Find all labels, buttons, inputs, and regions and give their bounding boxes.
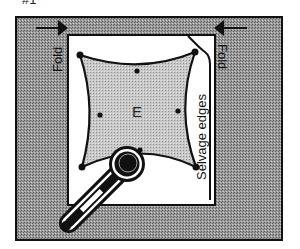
pattern-piece-label: E bbox=[132, 103, 142, 120]
pattern-corner-icon bbox=[77, 52, 84, 59]
pattern-layout-diagram: E Fold Fold Selvage edges bbox=[0, 0, 300, 249]
fold-label-left: Fold bbox=[50, 47, 65, 72]
pattern-notch-icon bbox=[97, 112, 102, 117]
selvage-label: Selvage edges bbox=[194, 93, 209, 180]
pattern-notch-icon bbox=[175, 108, 180, 113]
pattern-corner-icon bbox=[192, 49, 199, 56]
pattern-corner-icon bbox=[79, 164, 86, 171]
pattern-notch-icon bbox=[134, 68, 139, 73]
fold-label-right: Fold bbox=[215, 44, 230, 69]
